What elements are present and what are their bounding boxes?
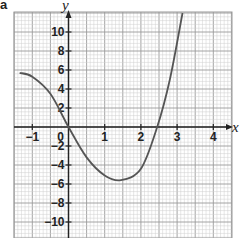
x-tick-label: −1 — [25, 130, 39, 144]
y-tick-label: 10 — [51, 25, 65, 39]
x-tick-label: 4 — [210, 130, 217, 144]
x-tick-label: 1 — [101, 130, 108, 144]
y-tick-label: −10 — [44, 215, 65, 229]
y-tick-label: 4 — [58, 82, 65, 96]
y-tick-label: −8 — [51, 196, 65, 210]
y-tick-label: −4 — [51, 158, 65, 172]
y-tick-label: −6 — [51, 177, 65, 191]
x-axis-label: x — [231, 119, 239, 135]
function-graph: −101234−10−8−6−4−2246810 x y — [0, 0, 241, 238]
y-tick-label: 8 — [58, 44, 65, 58]
y-tick-label: −2 — [51, 139, 65, 153]
x-tick-label: 3 — [174, 130, 181, 144]
y-tick-label: 6 — [58, 63, 65, 77]
x-tick-label: 2 — [138, 130, 145, 144]
grid — [14, 12, 232, 238]
y-axis-label: y — [60, 0, 69, 13]
